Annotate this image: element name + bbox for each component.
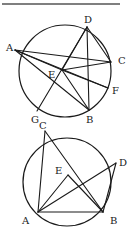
point-label-A: A bbox=[21, 215, 30, 226]
point-label-B: B bbox=[86, 114, 93, 125]
point-label-B: B bbox=[110, 215, 117, 226]
segment-AE bbox=[38, 175, 68, 212]
segment-EF bbox=[62, 70, 108, 88]
segment-EC bbox=[62, 62, 111, 70]
point-label-G: G bbox=[31, 114, 39, 125]
segment-DE bbox=[62, 27, 87, 70]
point-label-C: C bbox=[39, 120, 47, 131]
segment-CB bbox=[45, 131, 103, 212]
segment-EB bbox=[62, 70, 89, 110]
segment-DB bbox=[87, 27, 89, 110]
point-label-C: C bbox=[118, 55, 126, 66]
segment-CA bbox=[38, 131, 45, 212]
segment-AB bbox=[15, 50, 89, 110]
point-label-D: D bbox=[84, 14, 92, 25]
figure-bottom: CDABE bbox=[21, 120, 127, 226]
circle-bottom bbox=[23, 138, 111, 226]
geometry-diagram: ADCFBGECDABE bbox=[0, 0, 133, 234]
point-label-E: E bbox=[48, 69, 55, 80]
figure-top: ADCFBGE bbox=[5, 14, 126, 125]
point-label-F: F bbox=[112, 85, 119, 96]
point-label-A: A bbox=[5, 42, 14, 53]
segment-DC bbox=[87, 27, 111, 62]
point-label-D: D bbox=[119, 157, 127, 168]
point-label-E: E bbox=[55, 165, 62, 176]
segment-EB bbox=[68, 175, 103, 212]
